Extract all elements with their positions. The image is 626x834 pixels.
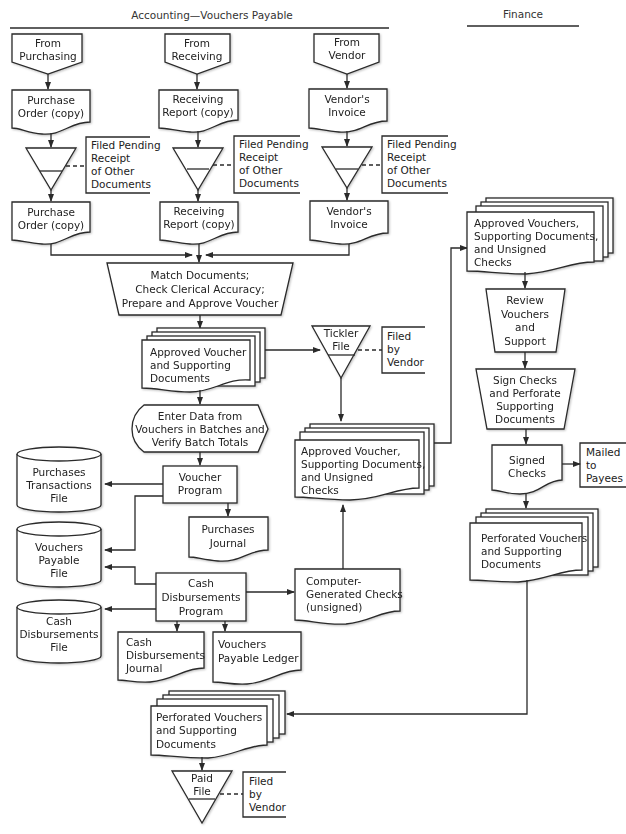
note-filed-pending-purchasing: Filed Pending Receipt of Other Documents bbox=[86, 137, 161, 193]
svg-text:Computer-: Computer- bbox=[306, 575, 362, 587]
svg-text:Supporting: Supporting bbox=[496, 400, 554, 412]
svg-text:(unsigned): (unsigned) bbox=[306, 601, 362, 613]
svg-text:File: File bbox=[50, 492, 68, 504]
svg-text:Purchases: Purchases bbox=[32, 466, 85, 478]
svg-text:From: From bbox=[35, 37, 61, 49]
svg-text:Match Documents;: Match Documents; bbox=[151, 269, 250, 281]
note-paid-filed-by-vendor: Filed by Vendor bbox=[243, 772, 287, 817]
svg-text:Vendor: Vendor bbox=[329, 49, 367, 61]
svg-text:Vouchers: Vouchers bbox=[218, 638, 266, 650]
svg-text:and Perforate: and Perforate bbox=[489, 387, 560, 399]
note-filed-pending-receiving: Filed Pending Receipt of Other Documents bbox=[234, 136, 309, 193]
svg-text:Supporting Documents,: Supporting Documents, bbox=[474, 230, 598, 242]
svg-text:Finance: Finance bbox=[503, 8, 543, 20]
svg-text:Documents: Documents bbox=[387, 177, 447, 189]
process-voucher-program: Voucher Program bbox=[163, 466, 237, 503]
svg-text:Supporting Documents,: Supporting Documents, bbox=[301, 458, 425, 470]
svg-text:Receiving: Receiving bbox=[172, 50, 223, 62]
svg-text:Checks: Checks bbox=[474, 256, 512, 268]
svg-text:File: File bbox=[193, 785, 211, 797]
svg-text:Filed Pending: Filed Pending bbox=[239, 138, 309, 150]
svg-text:Paid: Paid bbox=[191, 772, 213, 784]
file-pending-vendor bbox=[322, 147, 372, 188]
svg-text:Documents: Documents bbox=[481, 558, 541, 570]
process-match-documents: Match Documents; Check Clerical Accuracy… bbox=[107, 263, 293, 315]
svg-text:Cash: Cash bbox=[126, 636, 152, 648]
svg-text:Support: Support bbox=[504, 335, 546, 347]
svg-text:File: File bbox=[50, 567, 68, 579]
svg-text:Purchase: Purchase bbox=[27, 94, 75, 106]
svg-text:by: by bbox=[387, 343, 400, 355]
svg-text:and Supporting: and Supporting bbox=[481, 545, 562, 557]
svg-text:and: and bbox=[515, 321, 535, 333]
svg-text:and Supporting: and Supporting bbox=[150, 359, 231, 371]
svg-text:Receiving: Receiving bbox=[173, 93, 224, 105]
svg-text:Vendor: Vendor bbox=[249, 801, 287, 813]
file-tickler: Tickler File bbox=[312, 326, 370, 378]
svg-text:From: From bbox=[334, 36, 360, 48]
svg-text:Vendor's: Vendor's bbox=[324, 93, 369, 105]
note-filed-pending-vendor: Filed Pending Receipt of Other Documents bbox=[382, 136, 457, 193]
svg-text:Purchase: Purchase bbox=[27, 206, 75, 218]
svg-text:Invoice: Invoice bbox=[330, 218, 368, 230]
svg-text:Tickler: Tickler bbox=[323, 327, 359, 339]
svg-text:Filed: Filed bbox=[387, 330, 411, 342]
doc-vendors-invoice-filed: Vendor's Invoice bbox=[310, 201, 388, 244]
svg-text:Documents: Documents bbox=[156, 738, 216, 750]
doc-perforated-vouchers-returned: Perforated Vouchers and Supporting Docum… bbox=[151, 691, 285, 758]
source-from-purchasing: From Purchasing bbox=[12, 34, 82, 74]
doc-vouchers-payable-ledger: Vouchers Payable Ledger bbox=[213, 632, 301, 684]
svg-text:File: File bbox=[50, 641, 68, 653]
svg-text:Verify Batch Totals: Verify Batch Totals bbox=[152, 436, 249, 448]
svg-text:Checks: Checks bbox=[508, 467, 546, 479]
svg-text:Perforated Vouchers: Perforated Vouchers bbox=[481, 532, 587, 544]
doc-computer-generated-checks: Computer- Generated Checks (unsigned) bbox=[295, 569, 403, 624]
svg-text:Disbursements: Disbursements bbox=[162, 591, 241, 603]
doc-signed-checks: Signed Checks bbox=[492, 445, 562, 494]
svg-text:Receipt: Receipt bbox=[239, 151, 278, 163]
svg-text:Purchasing: Purchasing bbox=[19, 50, 76, 62]
svg-text:Vendor's: Vendor's bbox=[326, 205, 371, 217]
svg-text:by: by bbox=[249, 788, 262, 800]
svg-text:Report (copy): Report (copy) bbox=[162, 106, 233, 118]
process-review-vouchers: Review Vouchers and Support bbox=[486, 289, 565, 352]
svg-text:Filed Pending: Filed Pending bbox=[91, 139, 161, 151]
file-pending-purchasing bbox=[26, 148, 76, 190]
svg-text:Transactions: Transactions bbox=[25, 479, 92, 491]
svg-text:Accounting—Vouchers Payable: Accounting—Vouchers Payable bbox=[131, 9, 293, 21]
svg-text:Payable: Payable bbox=[39, 554, 80, 566]
svg-text:Journal: Journal bbox=[125, 662, 162, 674]
svg-text:Order (copy): Order (copy) bbox=[18, 107, 84, 119]
svg-text:Approved Vouchers,: Approved Vouchers, bbox=[474, 217, 579, 229]
disk-purchases-transactions-file: Purchases Transactions File bbox=[17, 447, 101, 512]
file-paid: Paid File bbox=[172, 771, 232, 823]
svg-text:Journal: Journal bbox=[209, 537, 246, 549]
svg-text:Signed: Signed bbox=[509, 454, 545, 466]
svg-text:Receiving: Receiving bbox=[174, 205, 225, 217]
file-pending-receiving bbox=[173, 148, 223, 190]
svg-text:and Unsigned: and Unsigned bbox=[474, 243, 546, 255]
svg-text:Documents: Documents bbox=[150, 372, 210, 384]
svg-text:Voucher: Voucher bbox=[179, 471, 222, 483]
doc-receiving-report-copy: Receiving Report (copy) bbox=[159, 90, 238, 132]
doc-purchase-order-filed: Purchase Order (copy) bbox=[12, 202, 90, 244]
header-accounting: Accounting—Vouchers Payable bbox=[10, 9, 389, 28]
svg-text:Approved Voucher,: Approved Voucher, bbox=[301, 445, 401, 457]
svg-text:of Other: of Other bbox=[239, 164, 283, 176]
svg-text:Receipt: Receipt bbox=[91, 152, 130, 164]
svg-text:and Supporting: and Supporting bbox=[156, 724, 237, 736]
svg-text:Payees: Payees bbox=[586, 472, 623, 484]
svg-text:Vouchers: Vouchers bbox=[501, 308, 549, 320]
svg-text:Documents: Documents bbox=[495, 413, 555, 425]
svg-text:Enter Data from: Enter Data from bbox=[158, 410, 242, 422]
svg-text:Review: Review bbox=[506, 294, 544, 306]
svg-text:Approved Voucher: Approved Voucher bbox=[150, 346, 247, 358]
svg-text:Prepare and Approve Voucher: Prepare and Approve Voucher bbox=[122, 297, 279, 309]
doc-purchase-order-copy: Purchase Order (copy) bbox=[12, 90, 90, 134]
doc-approved-voucher-supporting: Approved Voucher and Supporting Document… bbox=[142, 328, 265, 392]
svg-text:to: to bbox=[586, 459, 597, 471]
svg-text:Purchases: Purchases bbox=[201, 523, 254, 535]
svg-text:Vouchers in Batches and: Vouchers in Batches and bbox=[135, 423, 265, 435]
doc-purchases-journal: Purchases Journal bbox=[189, 517, 268, 561]
svg-text:Vendor: Vendor bbox=[387, 356, 425, 368]
